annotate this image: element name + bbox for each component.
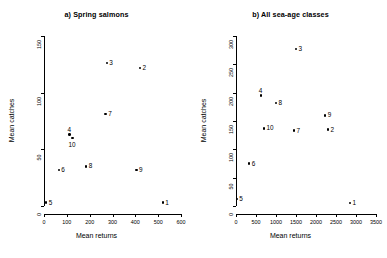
x-axis-tick — [158, 214, 159, 217]
x-axis-tick-label: 500 — [146, 219, 170, 225]
data-point — [85, 165, 87, 167]
data-point — [58, 169, 60, 171]
data-point-label: 8 — [89, 162, 93, 169]
data-point — [68, 133, 70, 135]
y-axis-line — [236, 36, 237, 206]
x-axis-tick-label: 0 — [32, 219, 56, 225]
data-point — [275, 102, 277, 104]
x-axis-tick — [44, 214, 45, 217]
panel-b-all-sea-age-classes: b) All sea-age classes 05010015020025030… — [194, 0, 387, 258]
data-point-label: 8 — [279, 99, 283, 106]
data-point — [349, 202, 351, 204]
data-point — [71, 137, 73, 139]
y-axis-tick-label: 50 — [228, 178, 234, 195]
data-point-label: 3 — [109, 59, 113, 66]
figure-scatter-panels: a) Spring salmons 0501001500100200300400… — [0, 0, 387, 258]
y-axis-tick-label: 150 — [36, 36, 42, 53]
y-axis-tick-label: 50 — [36, 149, 42, 166]
x-axis-tick — [90, 214, 91, 217]
data-point — [260, 94, 262, 96]
x-axis-tick — [236, 214, 237, 217]
data-point — [324, 114, 326, 116]
data-point-label: 3 — [299, 45, 303, 52]
x-axis-tick-label: 400 — [123, 219, 147, 225]
panel-b-plot-area: 0501001502002503000500100015002000250030… — [236, 36, 376, 206]
data-point-label: 6 — [252, 160, 256, 167]
data-point-label: 1 — [353, 199, 357, 206]
x-axis-tick — [376, 214, 377, 217]
data-point — [263, 127, 265, 129]
panel-a-y-axis-label: Mean catches — [8, 61, 15, 181]
y-axis-tick-label: 100 — [228, 149, 234, 166]
x-axis-line — [236, 214, 376, 215]
panel-a-spring-salmons: a) Spring salmons 0501001500100200300400… — [0, 0, 193, 258]
data-point — [293, 129, 295, 131]
x-axis-tick — [113, 214, 114, 217]
data-point-label: 10 — [69, 141, 76, 148]
x-axis-tick — [336, 214, 337, 217]
data-point-label: 4 — [68, 126, 72, 133]
data-point — [327, 128, 329, 130]
x-axis-tick-label: 300 — [101, 219, 125, 225]
y-axis-tick-label: 300 — [228, 36, 234, 53]
data-point-label: 10 — [267, 124, 274, 131]
data-point — [295, 48, 297, 50]
data-point-label: 1 — [165, 199, 169, 206]
data-point-label: 5 — [49, 199, 53, 206]
data-point — [135, 169, 137, 171]
data-point-label: 9 — [328, 111, 332, 118]
panel-b-y-axis-label: Mean catches — [200, 61, 207, 181]
x-axis-tick — [276, 214, 277, 217]
x-axis-tick — [356, 214, 357, 217]
x-axis-tick — [256, 214, 257, 217]
data-point-label: 7 — [108, 110, 112, 117]
data-point-label: 5 — [239, 195, 243, 202]
data-point-label: 4 — [259, 87, 263, 94]
x-axis-tick-label: 200 — [78, 219, 102, 225]
y-axis-tick-label: 150 — [228, 121, 234, 138]
data-point-label: 2 — [331, 126, 335, 133]
x-axis-tick — [135, 214, 136, 217]
x-axis-tick — [181, 214, 182, 217]
data-point — [104, 113, 106, 115]
x-axis-tick — [67, 214, 68, 217]
data-point — [162, 201, 164, 203]
y-axis-tick-label: 250 — [228, 64, 234, 81]
y-axis-tick-label: 100 — [36, 93, 42, 110]
data-point — [45, 201, 47, 203]
panel-b-x-axis-label: Mean returns — [194, 232, 387, 239]
data-point-label: 7 — [297, 127, 301, 134]
data-point — [106, 62, 108, 64]
data-point — [139, 67, 141, 69]
y-axis-line — [44, 36, 45, 206]
panel-a-x-axis-label: Mean returns — [0, 232, 193, 239]
panel-a-plot-area: 050100150010020030040050060012345678910 — [44, 36, 181, 206]
data-point — [248, 162, 250, 164]
data-point-label: 2 — [142, 64, 146, 71]
x-axis-tick-label: 600 — [169, 219, 193, 225]
panel-b-title: b) All sea-age classes — [194, 10, 387, 20]
x-axis-tick — [296, 214, 297, 217]
panel-a-title: a) Spring salmons — [0, 10, 193, 20]
y-axis-tick-label: 200 — [228, 93, 234, 110]
x-axis-tick-label: 100 — [55, 219, 79, 225]
x-axis-tick-label: 3500 — [364, 219, 387, 225]
data-point-label: 9 — [139, 166, 143, 173]
x-axis-tick — [316, 214, 317, 217]
data-point-label: 6 — [61, 166, 65, 173]
